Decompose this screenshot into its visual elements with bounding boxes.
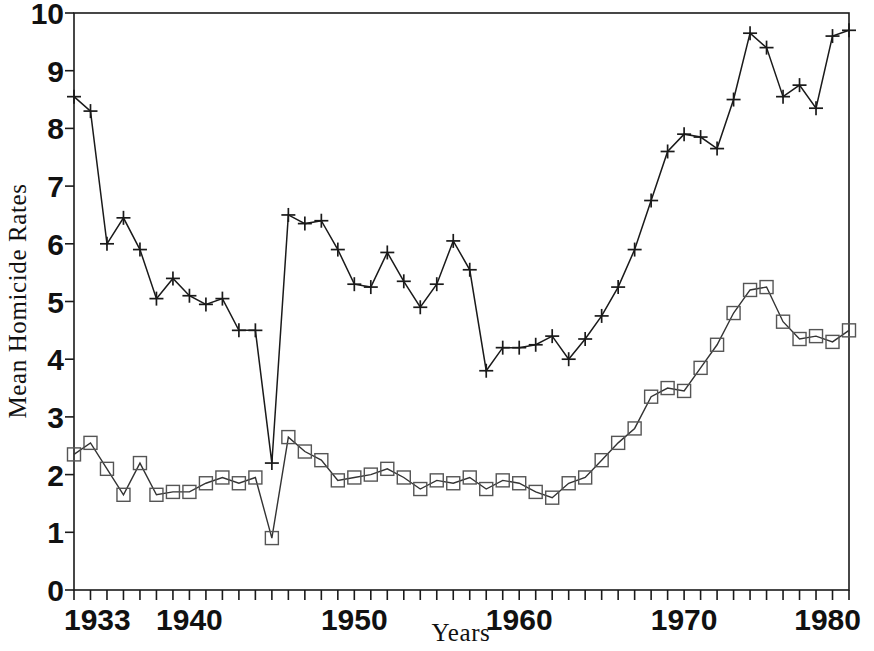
y-tick-label: 7 xyxy=(47,170,64,203)
x-tick-label: 1960 xyxy=(486,603,553,636)
y-tick-label: 1 xyxy=(47,516,64,549)
x-tick-label: 1980 xyxy=(794,603,861,636)
y-tick-label: 0 xyxy=(47,574,64,607)
chart-canvas: 012345678910 193319401950196019701980 Me… xyxy=(0,0,874,651)
y-tick-label: 4 xyxy=(47,343,64,376)
y-tick-label: 8 xyxy=(47,112,64,145)
y-tick-label: 9 xyxy=(47,55,64,88)
homicide-rates-chart-figure: 012345678910 193319401950196019701980 Me… xyxy=(0,0,874,651)
x-tick-label: 1950 xyxy=(321,603,388,636)
y-tick-label: 10 xyxy=(31,0,64,30)
y-axis-title: Mean Homicide Rates xyxy=(4,184,31,419)
y-tick-label: 5 xyxy=(47,286,64,319)
y-tick-label: 3 xyxy=(47,401,64,434)
x-tick-label: 1970 xyxy=(651,603,718,636)
y-tick-label: 6 xyxy=(47,228,64,261)
x-axis-title: Years xyxy=(432,619,491,646)
x-tick-label: 1933 xyxy=(64,603,131,636)
y-tick-label: 2 xyxy=(47,459,64,492)
chart-background xyxy=(0,0,874,651)
x-tick-label: 1940 xyxy=(156,603,223,636)
